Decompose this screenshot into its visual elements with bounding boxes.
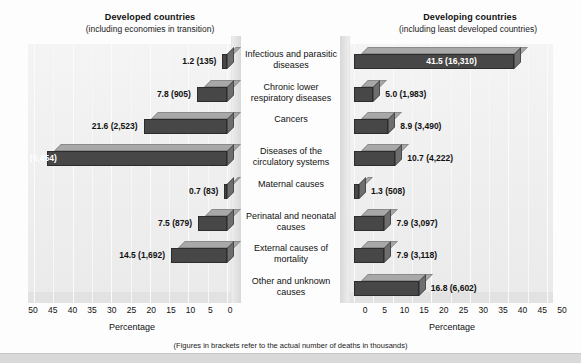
bar-developing[interactable] <box>354 184 359 199</box>
bar-front-face <box>222 54 227 69</box>
bar-front-face <box>47 151 227 166</box>
axis-tick: 5 <box>199 305 221 315</box>
category-label: Chronic lower respiratory diseases <box>242 82 340 104</box>
bar-row: 1.3 (508) <box>348 177 553 203</box>
bar-value-label: 16.8 (6,602) <box>431 282 477 295</box>
bar-row: 14.5 (1,692) <box>28 241 233 267</box>
bar-row: 7.9 (3,097) <box>348 209 553 235</box>
bar-value-label: 21.6 (2,523) <box>92 120 138 133</box>
category-label-column: Infectious and parasitic diseasesChronic… <box>242 44 340 303</box>
bar-front-face <box>354 216 384 231</box>
bar-front-face <box>144 119 227 134</box>
category-label: Maternal causes <box>242 179 340 190</box>
bar-row: 1.2 (135) <box>28 47 233 73</box>
bar-row: 16.8 (6,602) <box>348 274 553 300</box>
bar-top-face <box>361 241 398 248</box>
right-axis-ticks: 05101520253035404550 <box>340 305 562 319</box>
axis-tick: 35 <box>81 305 103 315</box>
bar-value-label: 8.9 (3,490) <box>400 120 441 133</box>
bar-top-face <box>361 209 398 216</box>
bar-developed[interactable] <box>198 216 227 231</box>
bar-side-face <box>359 177 366 199</box>
axis-tick: 50 <box>22 305 44 315</box>
bar-developed[interactable] <box>224 184 227 199</box>
bar-developing[interactable] <box>354 281 419 296</box>
bar-front-face <box>224 184 227 199</box>
axis-tick: 40 <box>61 305 83 315</box>
axis-tick: 45 <box>531 305 553 315</box>
bar-front-face <box>354 119 388 134</box>
bar-developing[interactable] <box>354 216 384 231</box>
axis-tick: 35 <box>492 305 514 315</box>
bar-front-face <box>354 151 395 166</box>
bar-side-face <box>227 177 234 199</box>
axis-tick: 15 <box>413 305 435 315</box>
bar-developing[interactable] <box>354 248 384 263</box>
bar-developed[interactable] <box>171 248 227 263</box>
bar-side-face <box>227 47 234 69</box>
axis-tick: 0 <box>219 305 241 315</box>
right-panel-title: Developing countries <box>380 12 560 22</box>
axis-tick: 10 <box>393 305 415 315</box>
bar-developed[interactable] <box>197 87 227 102</box>
bar-value-label: 41.5 (16,310) <box>426 55 477 68</box>
category-label: External causes of mortality <box>242 243 340 265</box>
bar-side-face <box>384 241 391 263</box>
bar-developing[interactable] <box>354 119 388 134</box>
bar-value-label: 1.2 (135) <box>182 55 216 68</box>
bar-developed[interactable] <box>144 119 227 134</box>
bar-developing[interactable] <box>354 87 373 102</box>
axis-tick: 45 <box>42 305 64 315</box>
bar-value-label: 1.3 (508) <box>371 185 405 198</box>
category-label: Diseases of the circulatory systems <box>242 146 340 168</box>
bar-front-face <box>171 248 227 263</box>
axis-tick: 0 <box>354 305 376 315</box>
bottom-strip <box>0 353 581 363</box>
left-axis-ticks: 50454035302520151050 <box>20 305 242 319</box>
bar-value-label: 7.9 (3,097) <box>396 217 437 230</box>
bar-value-label: 7.5 (879) <box>158 217 192 230</box>
axis-tick: 50 <box>551 305 573 315</box>
left-axis-title: Percentage <box>52 322 212 332</box>
bar-row: 21.6 (2,523) <box>28 112 233 138</box>
bar-value-label: 7.9 (3,118) <box>396 249 437 262</box>
bar-row: 46.7 (5,454) <box>28 144 233 170</box>
left-panel-subtitle: (including economies in transition) <box>40 24 260 34</box>
bar-value-label: 10.7 (4,222) <box>407 152 453 165</box>
bar-value-label: 7.8 (905) <box>157 88 191 101</box>
axis-tick: 5 <box>374 305 396 315</box>
category-label: Infectious and parasitic diseases <box>242 49 340 71</box>
bar-developed[interactable] <box>47 151 227 166</box>
category-label: Cancers <box>242 114 340 125</box>
category-label: Perinatal and neonatal causes <box>242 211 340 233</box>
bar-row: 0.7 (83) <box>28 177 233 203</box>
bar-front-face <box>354 248 384 263</box>
bar-value-label: 5.0 (1,983) <box>385 88 426 101</box>
bar-front-face <box>198 216 227 231</box>
bar-row: 41.5 (16,310) <box>348 47 553 73</box>
axis-tick: 30 <box>101 305 123 315</box>
bar-developing[interactable] <box>354 151 395 166</box>
chart-footnote: (Figures in brackets refer to the actual… <box>0 341 581 350</box>
axis-tick: 25 <box>453 305 475 315</box>
right-panel-subtitle: (including least developed countries) <box>358 24 578 34</box>
bar-row: 10.7 (4,222) <box>348 144 553 170</box>
bar-value-label: 46.7 (5,454) <box>11 152 57 165</box>
bar-developed[interactable] <box>222 54 227 69</box>
bar-top-face <box>54 144 241 151</box>
bar-value-label: 0.7 (83) <box>189 185 218 198</box>
bar-row: 7.9 (3,118) <box>348 241 553 267</box>
bar-row: 8.9 (3,490) <box>348 112 553 138</box>
axis-tick: 40 <box>512 305 534 315</box>
bar-row: 7.8 (905) <box>28 80 233 106</box>
category-label: Other and unknown causes <box>242 276 340 298</box>
bar-top-face <box>361 47 528 54</box>
bar-front-face <box>197 87 227 102</box>
bar-front-face <box>354 281 419 296</box>
bar-front-face <box>354 87 373 102</box>
bar-row: 5.0 (1,983) <box>348 80 553 106</box>
chart-page: Developed countries (including economies… <box>0 0 581 363</box>
bar-top-face <box>361 112 402 119</box>
axis-tick: 20 <box>140 305 162 315</box>
axis-tick: 25 <box>121 305 143 315</box>
